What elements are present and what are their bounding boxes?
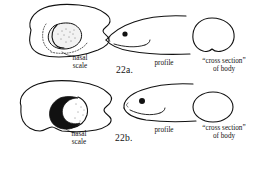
couplet-number-22a: 22a. (116, 65, 133, 75)
profile-dorsal-line-22b (124, 84, 193, 108)
profile-mouth-curl-22b (160, 108, 165, 113)
head-profile-22a (106, 16, 190, 55)
profile-mouth-curl-22a (145, 40, 150, 45)
couplet-number-22b: 22b. (115, 133, 133, 143)
profile-dorsal-line-22a (106, 16, 186, 40)
profile-eye-22b (139, 98, 145, 104)
profile-mouth-line-22b (130, 110, 160, 115)
cross-section-22b (193, 92, 233, 122)
nasal-scale-diagram-22b (20, 81, 111, 133)
profile-eye-22a (122, 31, 127, 36)
head-profile-22b (124, 84, 196, 122)
nasal-scale-label-line2-22b: scale (51, 139, 107, 147)
cross-section-outline-22b (193, 92, 233, 122)
figure-root: nasal scale 22a. profile “cross section”… (0, 0, 265, 169)
nasal-scale-crescent-22b (49, 97, 80, 130)
profile-label-22b: profile (142, 127, 186, 135)
profile-label-22a: profile (142, 60, 186, 68)
nasal-scale-crescent-22a (48, 23, 81, 49)
nasal-scale-diagram-22a (30, 4, 110, 57)
cross-section-label-line2-22b: of body (186, 133, 262, 141)
profile-ventral-line-22b (124, 108, 196, 122)
nasal-scale-label-22a: nasal scale (52, 55, 108, 70)
nasal-scale-label-22b: nasal scale (51, 131, 107, 146)
profile-mouth-line-22a (114, 44, 145, 47)
cross-section-label-22a: “cross section” of body (186, 58, 262, 73)
cross-section-22a (193, 18, 234, 51)
nasal-scale-stippling-22b (72, 104, 85, 124)
nasal-scale-label-line2-22a: scale (52, 63, 108, 71)
profile-ventral-line-22a (106, 40, 190, 54)
cross-section-label-line2-22a: of body (186, 66, 262, 74)
cross-section-outline-22a (193, 18, 234, 51)
profile-nostril-22b (127, 103, 129, 107)
figure-illustration (0, 0, 265, 169)
cross-section-label-22b: “cross section” of body (186, 125, 262, 140)
